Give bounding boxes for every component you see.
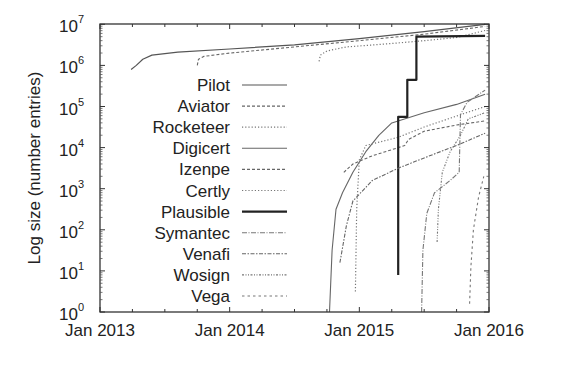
legend-item-rocketeer: Rocketeer	[153, 118, 287, 137]
legend-item-symantec: Symantec	[154, 224, 287, 243]
series-wosign	[437, 113, 485, 242]
series-aviator	[197, 26, 485, 65]
legend-label: Plausible	[161, 203, 230, 222]
legend: PilotAviatorRocketeerDigicertIzenpeCertl…	[153, 76, 287, 306]
series-plausible	[398, 36, 485, 275]
x-tick-label: Jan 2014	[195, 321, 265, 340]
series-symantec	[422, 90, 486, 312]
series-izenpe	[344, 121, 485, 172]
y-axis-title: Log size (number entries)	[25, 72, 44, 265]
legend-label: Certly	[186, 182, 231, 201]
legend-label: Rocketeer	[153, 118, 231, 137]
legend-item-venafi: Venafi	[183, 245, 287, 264]
log-size-chart: 100101102103104105106107 Jan 2013Jan 201…	[0, 0, 563, 368]
y-tick-label: 103	[59, 178, 84, 201]
legend-item-pilot: Pilot	[197, 76, 287, 95]
series-venafi	[340, 133, 485, 263]
y-tick-label: 105	[59, 96, 84, 119]
series-certly	[355, 107, 485, 292]
y-tick-label: 106	[59, 54, 84, 77]
legend-item-aviator: Aviator	[177, 97, 287, 116]
y-tick-label: 101	[59, 260, 84, 283]
legend-label: Izenpe	[179, 160, 230, 179]
legend-item-wosign: Wosign	[174, 266, 287, 285]
y-tick-label: 104	[59, 137, 84, 160]
legend-item-certly: Certly	[186, 182, 287, 201]
y-tick-label: 107	[59, 13, 84, 36]
plot-frame	[100, 24, 489, 312]
legend-label: Pilot	[197, 76, 230, 95]
series-vega	[470, 176, 484, 303]
legend-item-izenpe: Izenpe	[179, 160, 287, 179]
series-pilot	[131, 24, 485, 69]
x-tick-label: Jan 2016	[454, 321, 524, 340]
legend-label: Wosign	[174, 266, 230, 285]
legend-label: Aviator	[177, 97, 230, 116]
legend-label: Vega	[191, 287, 230, 306]
legend-item-vega: Vega	[191, 287, 287, 306]
x-tick-label: Jan 2013	[65, 321, 135, 340]
x-axis: Jan 2013Jan 2014Jan 2015Jan 2016	[65, 24, 524, 340]
legend-label: Symantec	[154, 224, 230, 243]
y-axis: 100101102103104105106107	[59, 13, 489, 324]
legend-item-plausible: Plausible	[161, 203, 287, 222]
legend-label: Venafi	[183, 245, 230, 264]
x-tick-label: Jan 2015	[324, 321, 394, 340]
y-tick-label: 102	[59, 219, 84, 242]
legend-item-digicert: Digicert	[172, 139, 287, 158]
legend-label: Digicert	[172, 139, 230, 158]
